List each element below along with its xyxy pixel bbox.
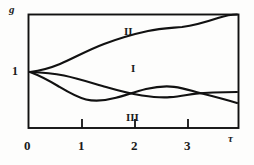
curve-label-II: II (124, 26, 133, 37)
x-tick-label-2: 2 (131, 139, 138, 152)
x-tick-label-0: 0 (24, 139, 31, 152)
y-tick-label-1: 1 (12, 65, 18, 77)
curve-III (30, 72, 237, 103)
x-tick-label-1: 1 (78, 139, 85, 152)
y-axis-label: g (9, 4, 15, 15)
x-tick-label-3: 3 (184, 139, 191, 152)
curve-label-III: III (126, 112, 139, 123)
x-axis-label: τ (228, 133, 233, 144)
curve-label-I: I (131, 63, 135, 74)
figure-container: g 1 τ 0 1 2 3 II I III (0, 0, 254, 165)
